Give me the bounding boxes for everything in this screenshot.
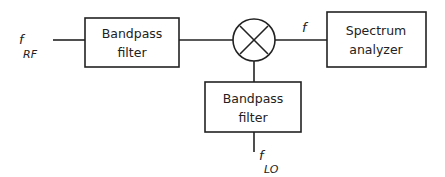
svg-text:f: f <box>19 32 26 47</box>
svg-text:RF: RF <box>23 48 38 61</box>
output-frequency-label: f <box>302 20 309 35</box>
spectrum-analyzer-block: Spectrum analyzer <box>327 12 426 67</box>
lo-input-label: f LO <box>259 148 279 176</box>
block-diagram: f RF Bandpass filter f Spectrum analyzer… <box>0 0 445 177</box>
lo-bandpass-filter-block: Bandpass filter <box>205 82 301 132</box>
mixer <box>233 19 275 61</box>
spectrum-analyzer-box <box>327 12 426 67</box>
svg-text:Spectrum: Spectrum <box>346 23 407 38</box>
svg-text:LO: LO <box>264 163 279 176</box>
svg-text:Bandpass: Bandpass <box>223 91 284 106</box>
rf-bandpass-filter-block: Bandpass filter <box>85 18 179 67</box>
svg-text:filter: filter <box>238 110 268 125</box>
svg-text:f: f <box>259 148 266 163</box>
svg-text:analyzer: analyzer <box>349 42 403 57</box>
rf-input-label: f RF <box>19 32 38 61</box>
svg-text:filter: filter <box>117 45 147 60</box>
svg-text:Bandpass: Bandpass <box>102 26 163 41</box>
